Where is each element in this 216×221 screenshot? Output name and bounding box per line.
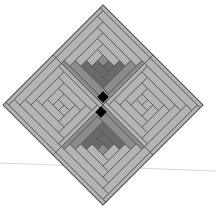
quilt-group — [3, 5, 203, 205]
quilt-diamond-svg — [0, 0, 216, 221]
quilt-figure — [0, 0, 216, 221]
